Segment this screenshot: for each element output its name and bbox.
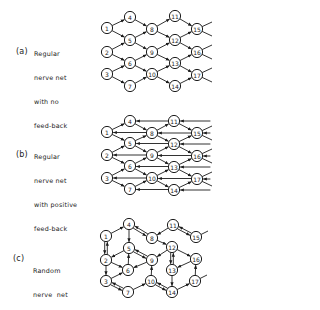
edge-arrow-forward — [110, 285, 121, 291]
edge-arrow-forward — [133, 252, 146, 259]
neuron-node: 8 — [146, 127, 157, 138]
svg-text:14: 14 — [170, 187, 178, 194]
neuron-node: 3 — [101, 172, 112, 183]
svg-text:17: 17 — [191, 278, 199, 285]
edge-arrow — [179, 136, 191, 142]
svg-text:1: 1 — [105, 25, 109, 32]
edge-arrow — [178, 261, 191, 267]
svg-text:3: 3 — [104, 278, 108, 285]
edge-arrow — [112, 169, 125, 176]
edge-arrow-forward — [155, 285, 166, 291]
neuron-node: 15 — [190, 231, 201, 242]
edge-stub — [202, 45, 212, 50]
svg-text:17: 17 — [193, 72, 201, 79]
neuron-node: 8 — [146, 232, 157, 243]
svg-text:15: 15 — [193, 26, 201, 33]
svg-text:13: 13 — [168, 267, 176, 274]
edge-arrow — [157, 43, 170, 50]
neuron-node: 9 — [146, 149, 157, 160]
edge-arrow — [112, 134, 124, 140]
svg-text:12: 12 — [170, 141, 178, 148]
edge-arrow — [112, 157, 124, 163]
neuron-node: 2 — [100, 254, 111, 265]
svg-text:11: 11 — [170, 118, 178, 125]
edge-arrow — [157, 136, 168, 142]
neuron-node: 4 — [124, 11, 135, 22]
edge-arrow — [157, 158, 169, 164]
svg-text:2: 2 — [105, 152, 109, 159]
edge-arrow — [179, 170, 192, 177]
svg-text:12: 12 — [168, 244, 176, 251]
edge-arrow — [135, 77, 147, 83]
svg-text:6: 6 — [126, 267, 130, 274]
edge-arrow — [112, 66, 124, 72]
edge-arrow — [157, 54, 169, 60]
neuron-node: 10 — [146, 172, 157, 183]
edge-stub — [202, 149, 212, 154]
neuron-node: 13 — [169, 57, 180, 68]
neuron-node: 10 — [145, 275, 156, 286]
edge-arrow — [135, 169, 147, 175]
svg-text:4: 4 — [127, 221, 131, 228]
neuron-node: 7 — [124, 183, 135, 194]
svg-text:11: 11 — [171, 13, 179, 20]
svg-text:16: 16 — [193, 153, 201, 160]
svg-text:3: 3 — [105, 175, 109, 182]
neuron-node: 7 — [124, 80, 135, 91]
edge-stub — [202, 126, 212, 131]
edge-arrow — [112, 20, 124, 26]
neuron-node: 2 — [101, 46, 112, 57]
neuron-node: 3 — [100, 275, 111, 286]
edge-arrow — [112, 54, 124, 60]
svg-text:7: 7 — [128, 186, 132, 193]
edge-stub — [200, 275, 207, 278]
svg-text:17: 17 — [193, 176, 201, 183]
neuron-node: 9 — [146, 254, 157, 265]
svg-text:2: 2 — [105, 49, 109, 56]
edge-arrow — [112, 146, 125, 153]
edge-stub — [202, 181, 212, 186]
edge-arrow — [180, 78, 191, 84]
svg-text:13: 13 — [171, 60, 179, 67]
edge-arrow — [134, 262, 147, 267]
edge-arrow — [135, 43, 147, 49]
edge-arrow — [111, 227, 124, 234]
edge-arrow — [179, 159, 191, 165]
edge-arrow — [135, 136, 146, 141]
edge-arrow-forward — [177, 229, 190, 236]
edge-stub — [202, 158, 212, 163]
svg-text:6: 6 — [128, 163, 132, 170]
svg-text:12: 12 — [171, 37, 179, 44]
edge-arrow — [179, 124, 192, 131]
neuron-node: 15 — [191, 23, 202, 34]
neuron-node: 17 — [189, 275, 200, 286]
edge-arrow — [112, 124, 124, 130]
svg-text:13: 13 — [170, 164, 178, 171]
svg-text:14: 14 — [171, 83, 179, 90]
svg-text:2: 2 — [104, 257, 108, 264]
neuron-node: 15 — [191, 127, 202, 138]
svg-text:16: 16 — [192, 256, 200, 263]
neuron-node: 13 — [166, 264, 177, 275]
svg-text:3: 3 — [105, 71, 109, 78]
edge-stub — [202, 77, 212, 82]
svg-text:9: 9 — [150, 152, 154, 159]
edge-arrow — [177, 250, 190, 257]
neuron-node: 8 — [146, 23, 157, 34]
edge-arrow — [135, 158, 146, 164]
svg-text:9: 9 — [150, 257, 154, 264]
edge-arrow — [157, 77, 170, 84]
svg-text:5: 5 — [128, 140, 132, 147]
svg-text:1: 1 — [105, 129, 109, 136]
edge-arrow — [157, 181, 169, 187]
svg-text:8: 8 — [150, 26, 154, 33]
neuron-node: 11 — [169, 10, 180, 21]
neuron-node: 13 — [168, 161, 179, 172]
neuron-node: 7 — [122, 286, 133, 297]
svg-text:16: 16 — [193, 49, 201, 56]
neuron-node: 12 — [168, 138, 179, 149]
neuron-node: 2 — [101, 149, 112, 160]
edge-stub — [202, 68, 212, 73]
neuron-node: 1 — [100, 230, 111, 241]
neuron-node: 14 — [168, 184, 179, 195]
